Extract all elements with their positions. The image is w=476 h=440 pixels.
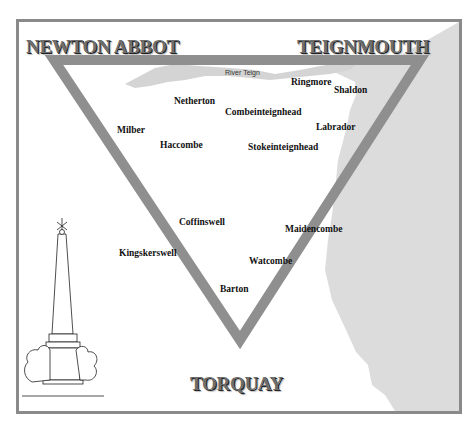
label-teignmouth: TEIGNMOUTH xyxy=(297,36,429,58)
place-watcombe: Watcombe xyxy=(249,256,292,266)
place-netherton: Netherton xyxy=(174,96,215,106)
place-kingskerswell: Kingskerswell xyxy=(119,248,177,258)
label-river-teign: River Teign xyxy=(225,69,260,76)
label-torquay: TORQUAY xyxy=(190,373,283,395)
place-stokeinteignhead: Stokeinteignhead xyxy=(248,142,318,152)
obelisk-monument-icon xyxy=(22,218,104,396)
place-combeinteignhead: Combeinteignhead xyxy=(225,107,302,117)
place-haccombe: Haccombe xyxy=(160,140,203,150)
place-milber: Milber xyxy=(117,125,145,135)
label-newton-abbot: NEWTON ABBOT xyxy=(26,36,179,58)
place-coffinswell: Coffinswell xyxy=(179,217,225,227)
place-shaldon: Shaldon xyxy=(334,85,367,95)
sea-area xyxy=(325,22,459,411)
place-maidencombe: Maidencombe xyxy=(285,224,343,234)
place-ringmore: Ringmore xyxy=(291,77,331,87)
place-labrador: Labrador xyxy=(316,122,356,132)
place-barton: Barton xyxy=(220,284,249,294)
